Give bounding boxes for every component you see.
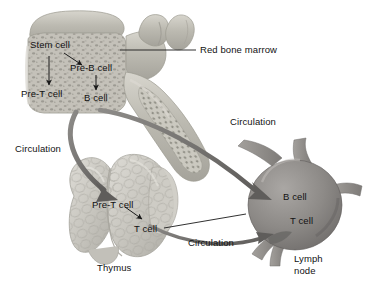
label-b-cell-marrow: B cell xyxy=(84,92,108,103)
lymph-node-illustration xyxy=(238,138,362,266)
diagram-root: Stem cell Pre-B cell Pre-T cell B cell R… xyxy=(0,0,376,294)
label-lymph-node-line1: Lymph xyxy=(294,253,323,264)
label-pre-b-cell: Pre-B cell xyxy=(70,62,112,73)
label-b-cell-node: B cell xyxy=(283,191,307,202)
label-lymph-node-line2: node xyxy=(294,265,316,276)
label-circulation-thymus-to-node: Circulation xyxy=(188,237,234,248)
label-pre-t-cell-thymus: Pre-T cell xyxy=(92,199,133,210)
label-t-cell-thymus: T cell xyxy=(134,223,157,234)
label-pre-t-cell-marrow: Pre-T cell xyxy=(21,88,62,99)
label-stem-cell: Stem cell xyxy=(30,39,70,50)
label-red-bone-marrow: Red bone marrow xyxy=(200,44,277,55)
label-t-cell-node: T cell xyxy=(290,215,313,226)
leader-line-t-cell-thymus xyxy=(164,214,246,228)
label-circulation-marrow-to-node: Circulation xyxy=(230,116,276,127)
label-circulation-marrow-to-thymus: Circulation xyxy=(15,143,61,154)
label-thymus: Thymus xyxy=(97,262,131,273)
